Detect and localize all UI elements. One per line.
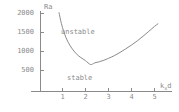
x-tick-label-5: 5 [150,94,160,101]
x-tick-label-3: 3 [104,94,114,101]
y-tick-label-1500: 1500 [6,29,34,36]
y-axis-ticks [41,14,45,71]
annotation-stable: stable [67,74,92,82]
x-axis-ticks [63,88,155,92]
chart-plot-area: Ra kxd 2000 1500 1000 500 1 2 3 4 5 unst… [0,0,179,112]
annotation-unstable: unstable [61,28,95,36]
x-axis-title-tail: d [167,82,171,90]
y-axis-title: Ra [44,3,52,11]
y-tick-label-1000: 1000 [6,48,34,55]
x-axis-title: kxd [160,82,171,90]
x-tick-label-2: 2 [81,94,91,101]
y-tick-label-2000: 2000 [6,10,34,17]
marginal-stability-curve [59,13,158,65]
y-tick-label-500: 500 [6,67,34,74]
x-tick-label-1: 1 [58,94,68,101]
x-tick-label-4: 4 [127,94,137,101]
